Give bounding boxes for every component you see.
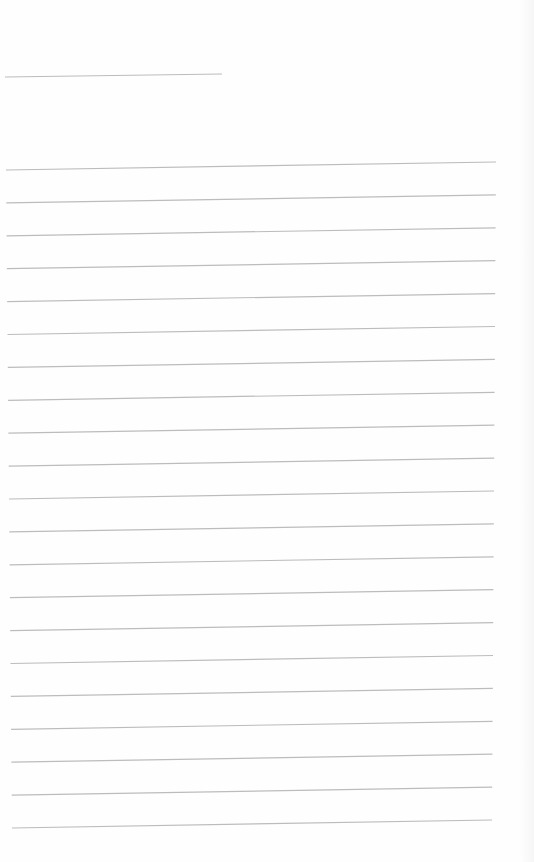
ruled-line xyxy=(10,557,494,565)
ruled-line xyxy=(11,656,494,664)
ruled-line xyxy=(10,623,493,631)
ruled-line xyxy=(11,721,493,729)
ruled-lines xyxy=(0,0,534,862)
ruled-line xyxy=(12,787,493,795)
ruled-line xyxy=(11,754,492,762)
ruled-line xyxy=(7,228,496,236)
ruled-line xyxy=(9,491,494,499)
ruled-line xyxy=(11,688,493,696)
ruled-line xyxy=(7,261,496,269)
ruled-line xyxy=(6,162,496,170)
ruled-line xyxy=(8,327,496,335)
ruled-line xyxy=(8,359,495,367)
page-edge-shadow xyxy=(520,0,534,862)
ruled-line xyxy=(8,425,494,433)
ruled-line xyxy=(10,590,494,598)
ruled-line xyxy=(9,524,494,532)
ruled-line xyxy=(6,195,496,203)
ruled-line xyxy=(7,294,495,302)
ruled-line xyxy=(9,458,495,466)
ruled-line-group xyxy=(6,162,496,828)
ruled-line xyxy=(8,392,495,400)
ruled-line xyxy=(12,820,492,828)
ruled-paper-sheet xyxy=(0,0,534,862)
header-line xyxy=(5,74,222,77)
